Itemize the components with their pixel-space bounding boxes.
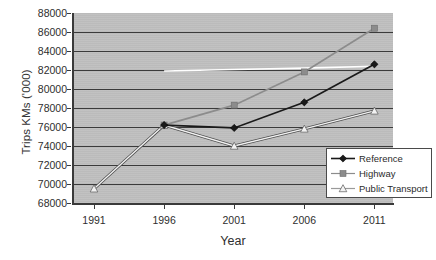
y-axis-tick-mark — [67, 127, 71, 128]
data-point-marker — [231, 102, 237, 108]
y-axis-tick-mark — [67, 70, 71, 71]
y-axis-tick-label: 68000 — [38, 198, 67, 208]
y-axis-tick-label: 80000 — [38, 84, 67, 94]
legend-marker-square-icon — [330, 167, 356, 180]
data-point-marker — [301, 99, 308, 106]
y-axis-tick-label: 70000 — [38, 179, 67, 189]
chart-container: Trips KMs ('000) 88000860008400082000800… — [0, 0, 436, 260]
x-axis-tick-mark — [374, 204, 375, 209]
legend-item-label: Reference — [359, 153, 403, 164]
y-axis-tick-mark — [67, 89, 71, 90]
x-axis-tick-mark — [304, 204, 305, 209]
y-axis-tick-mark — [67, 165, 71, 166]
data-point-marker — [231, 124, 238, 131]
data-point-marker — [371, 25, 377, 31]
x-axis-line — [72, 203, 394, 205]
y-axis-tick-label: 74000 — [38, 141, 67, 151]
x-axis-title: Year — [73, 234, 393, 248]
legend-item-label: Highway — [359, 168, 395, 179]
data-point-marker — [301, 69, 307, 75]
legend-item: Reference — [330, 151, 428, 166]
legend-item-label: Public Transport — [359, 183, 428, 194]
y-axis-tick-label: 82000 — [38, 65, 67, 75]
legend-marker-diamond-icon — [330, 152, 356, 165]
y-axis-tick-mark — [67, 146, 71, 147]
x-axis-tick-mark — [94, 204, 95, 209]
x-axis-tick-mark — [234, 204, 235, 209]
x-axis-tick-mark — [164, 204, 165, 209]
y-axis-tick-labels: 8800086000840008200080000780007600074000… — [0, 0, 71, 260]
y-axis-tick-mark — [67, 108, 71, 109]
y-axis-tick-mark — [67, 203, 71, 204]
y-axis-tick-mark — [67, 32, 71, 33]
y-axis-tick-label: 76000 — [38, 122, 67, 132]
x-axis-tick-label: 2006 — [282, 214, 326, 226]
y-axis-tick-mark — [67, 184, 71, 185]
y-axis-tick-mark — [67, 13, 71, 14]
legend-marker-triangle-icon — [330, 182, 356, 195]
y-axis-tick-label: 84000 — [38, 46, 67, 56]
legend-item: Public Transport — [330, 181, 428, 196]
y-axis-tick-mark — [67, 51, 71, 52]
y-axis-tick-label: 78000 — [38, 103, 67, 113]
legend-item: Highway — [330, 166, 428, 181]
y-axis-tick-label: 86000 — [38, 27, 67, 37]
series-line — [164, 66, 374, 71]
x-axis-tick-label: 2001 — [212, 214, 256, 226]
chart-legend: ReferenceHighwayPublic Transport — [326, 148, 432, 198]
y-axis-tick-label: 72000 — [38, 160, 67, 170]
y-axis-tick-label: 88000 — [38, 8, 67, 18]
series-line — [164, 28, 374, 125]
x-axis-tick-label: 1996 — [142, 214, 186, 226]
x-axis-tick-label: 2011 — [352, 214, 396, 226]
x-axis-tick-label: 1991 — [72, 214, 116, 226]
